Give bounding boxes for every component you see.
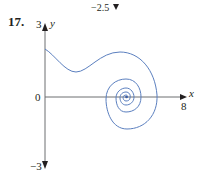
y-axis-down-arrow-icon <box>42 161 48 169</box>
y-axis-min-label: −3 <box>30 161 42 172</box>
problem-number: 17. <box>8 14 24 30</box>
prev-axis-arrow-icon <box>113 4 119 10</box>
y-axis-title: y <box>50 18 55 29</box>
y-axis-zero-label: 0 <box>35 92 41 103</box>
y-axis-up-arrow-icon <box>42 23 48 31</box>
x-axis-max-label: 8 <box>181 101 187 112</box>
x-axis-title: x <box>189 88 194 99</box>
y-axis-max-label: 3 <box>36 19 42 30</box>
plot-canvas <box>0 0 203 179</box>
spiral-center-point <box>125 96 128 99</box>
spiral-curve <box>45 49 157 129</box>
